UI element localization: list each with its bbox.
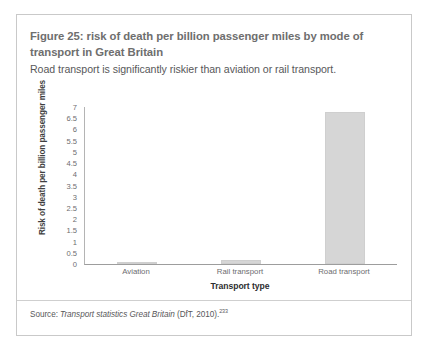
- bar-slot: [293, 107, 397, 264]
- source-divider: [17, 300, 411, 301]
- x-axis-tick-label: Road transport: [292, 267, 396, 276]
- y-axis-tick-label: 3: [49, 192, 77, 201]
- x-axis-tick-labels: AviationRail transportRoad transport: [84, 267, 396, 276]
- source-suffix: (DfT, 2010).: [175, 310, 219, 319]
- y-axis-tick-label: 5.5: [49, 136, 77, 145]
- y-axis-tick-label: 6.5: [49, 114, 77, 123]
- bar-slot: [189, 107, 293, 264]
- y-axis-tick-label: 6: [49, 125, 77, 134]
- bar-aviation[interactable]: [117, 262, 157, 264]
- y-axis-title: Risk of death per billion passenger mile…: [38, 78, 47, 238]
- figure-subtitle: Road transport is significantly riskier …: [30, 62, 398, 76]
- source-prefix: Source:: [30, 310, 60, 319]
- x-axis-tick-label: Rail transport: [188, 267, 292, 276]
- y-axis-tick-label: 7: [49, 103, 77, 112]
- figure-title: Figure 25: risk of death per billion pas…: [30, 29, 382, 60]
- x-axis-title: Transport type: [84, 281, 396, 291]
- plot-area: [84, 107, 397, 265]
- y-axis-tick-labels: 76.565.554.543.532.521.510.50: [49, 107, 77, 264]
- y-axis-tick-label: 4.5: [49, 159, 77, 168]
- source-title: Transport statistics Great Britain: [60, 310, 175, 319]
- y-axis-tick-label: 0.5: [49, 248, 77, 257]
- figure-card: Figure 25: risk of death per billion pas…: [16, 14, 412, 336]
- bar-road-transport[interactable]: [325, 112, 365, 265]
- source-reference-superscript: 233: [219, 308, 228, 314]
- y-axis-tick-label: 4: [49, 170, 77, 179]
- y-axis-tick-label: 1.5: [49, 226, 77, 235]
- y-axis-tick-label: 3.5: [49, 181, 77, 190]
- bars-layer: [85, 107, 397, 264]
- y-axis-tick-label: 1: [49, 237, 77, 246]
- bar-slot: [85, 107, 189, 264]
- y-axis-tick-label: 2: [49, 215, 77, 224]
- y-axis-tick-label: 2.5: [49, 203, 77, 212]
- bar-chart: Risk of death per billion passenger mile…: [25, 83, 405, 288]
- y-axis-tick-label: 0: [49, 260, 77, 269]
- y-axis-tick-label: 5: [49, 147, 77, 156]
- bar-rail-transport[interactable]: [221, 260, 261, 264]
- source-citation: Source: Transport statistics Great Brita…: [30, 308, 228, 319]
- x-axis-tick-label: Aviation: [84, 267, 188, 276]
